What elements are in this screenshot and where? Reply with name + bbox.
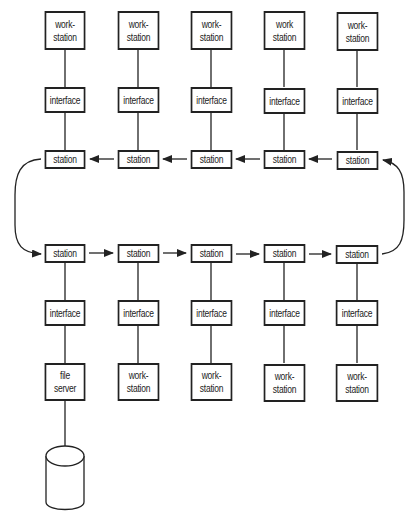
workstation-label: work- station [346,19,369,45]
interface-bottom-3: interface [191,300,233,326]
station-label: station [53,153,76,166]
station-top-5: station [337,151,379,170]
interface-top-4: interface [264,88,306,114]
workstation-label: work- station [127,18,150,44]
station-top-4: station [264,150,306,169]
station-top-2: station [118,150,160,169]
disk-storage-icon [46,446,84,510]
interface-bottom-5: interface [336,300,379,326]
interface-label: interface [342,95,372,108]
station-label: station [273,153,296,166]
workstation-bottom-3: work- station [191,363,233,401]
interface-label: interface [196,94,226,107]
interface-label: interface [269,95,299,108]
workstation-top-3: work- station [191,11,233,50]
station-label: station [127,153,150,166]
workstation-top-2: work- station [118,11,160,50]
station-label: station [200,247,223,260]
workstation-bottom-4: work- station [264,364,306,402]
station-label: station [200,153,223,166]
workstation-top-1: work- station [45,11,86,50]
file-server-label: file server [54,369,76,395]
interface-bottom-1: interface [45,300,86,326]
interface-bottom-4: interface [264,300,306,326]
station-bottom-3: station [191,244,233,263]
interface-top-2: interface [118,87,160,113]
station-label: station [53,247,76,260]
station-top-1: station [45,150,86,169]
interface-label: interface [50,307,80,320]
workstation-top-5: work- station [337,12,379,51]
interface-label: interface [123,94,153,107]
station-bottom-2: station [118,244,160,263]
interface-top-5: interface [337,88,379,114]
workstation-bottom-5: work- station [336,364,379,402]
station-label: station [346,154,369,167]
workstation-label: work- station [53,18,76,44]
workstation-label: work station [273,18,296,44]
interface-top-1: interface [45,87,86,113]
workstation-bottom-2: work- station [118,363,160,401]
interface-label: interface [50,94,80,107]
interface-top-3: interface [191,87,233,113]
station-top-3: station [191,150,233,169]
interface-label: interface [196,307,226,320]
station-bottom-5: station [336,245,379,264]
station-bottom-1: station [45,244,86,263]
workstation-label: work- station [273,370,296,396]
interface-bottom-2: interface [118,300,160,326]
station-label: station [345,248,368,261]
station-label: station [127,247,150,260]
workstation-label: work- station [200,18,223,44]
file-server: file server [45,363,86,401]
interface-label: interface [342,307,372,320]
workstation-label: work- station [127,369,150,395]
interface-label: interface [123,307,153,320]
workstation-top-4: work station [264,11,306,50]
station-label: station [273,247,296,260]
workstation-label: work- station [345,370,368,396]
interface-label: interface [269,307,299,320]
station-bottom-4: station [264,244,306,263]
workstation-label: work- station [200,369,223,395]
